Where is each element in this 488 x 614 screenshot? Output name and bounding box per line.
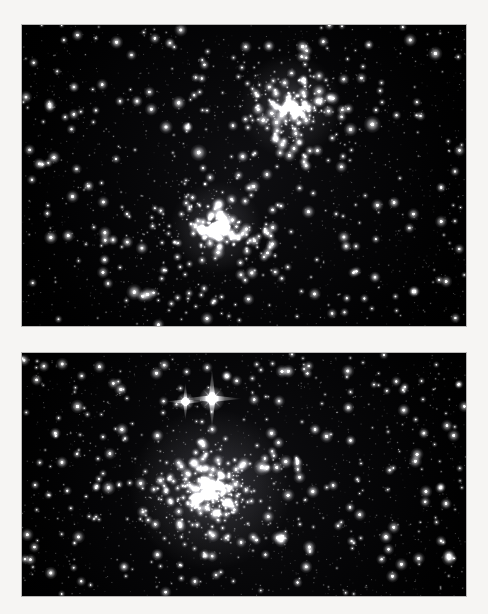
- upper-starfield-panel: [22, 25, 466, 326]
- upper-sky-canvas: [22, 25, 466, 326]
- lower-starfield-panel: [22, 353, 466, 596]
- lower-sky-canvas: [22, 353, 466, 596]
- astro-plate: [0, 0, 488, 614]
